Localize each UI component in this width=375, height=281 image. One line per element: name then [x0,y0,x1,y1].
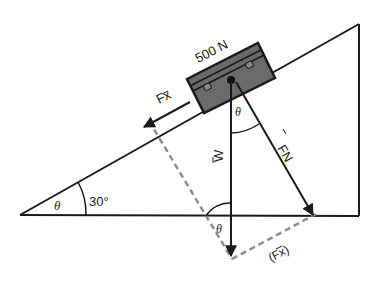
dashed-force-rectangle [149,121,316,259]
base-angle-arc [78,182,86,215]
normal-force-label: FN [274,142,296,165]
fx-force-label: Fx [154,87,174,107]
top-theta-label: θ [235,105,241,119]
incline-surface [20,24,359,215]
bottom-angle-arc [206,203,231,216]
dashed-line-left [149,121,232,259]
bottom-theta-label: θ [216,222,222,236]
inclined-plane [20,24,359,216]
base-theta-label: θ [54,198,61,213]
ground-line [20,215,359,216]
angle-value-label: 30° [89,194,109,209]
fx-dashed-label: (Fx) [266,243,291,265]
fn-vector-mark [283,129,286,134]
top-angle-arc [231,124,259,133]
inclined-plane-diagram: θ 30° 500 N Fx W FN θ θ (Fx) [0,0,375,281]
